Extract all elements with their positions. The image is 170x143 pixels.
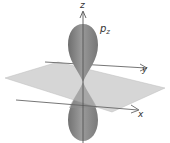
orbital-label-subscript: z bbox=[105, 28, 110, 36]
x-axis-label: x bbox=[137, 109, 144, 119]
orbital-label-main: p bbox=[99, 23, 106, 34]
z-axis-label: z bbox=[79, 0, 85, 10]
orbital-label: pz bbox=[99, 23, 110, 36]
pz-orbital-diagram: z y x pz bbox=[0, 0, 170, 143]
y-axis-label: y bbox=[141, 64, 148, 74]
